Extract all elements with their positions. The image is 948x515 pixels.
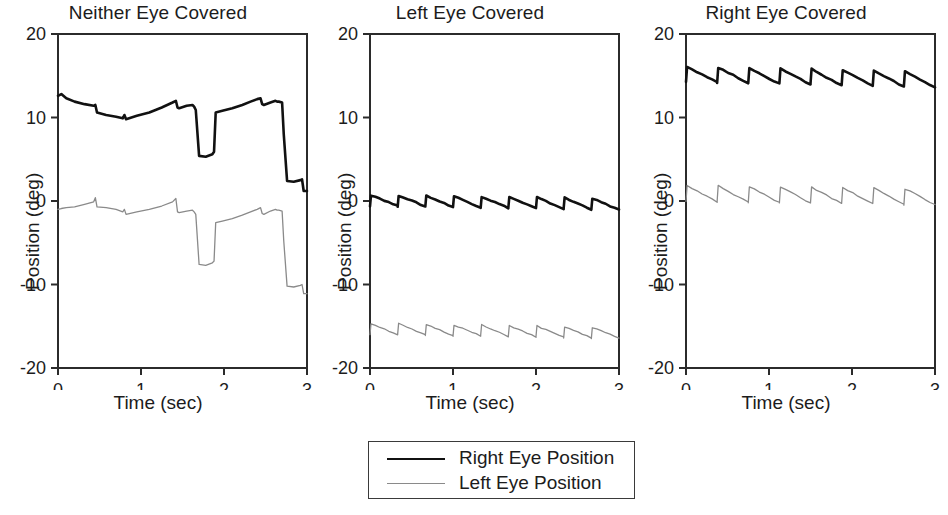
- svg-text:-20: -20: [20, 358, 46, 378]
- panel-right-eye-covered: Right Eye Covered Position (deg) 20100-1…: [628, 0, 944, 430]
- x-axis-title: Time (sec): [628, 392, 944, 414]
- legend-item-right-eye: Right Eye Position: [369, 445, 614, 471]
- svg-text:0: 0: [36, 191, 46, 211]
- svg-text:-10: -10: [332, 275, 358, 295]
- figure-legend: Right Eye Position Left Eye Position: [368, 441, 635, 499]
- svg-text:20: 20: [338, 24, 358, 44]
- svg-text:0: 0: [365, 380, 375, 390]
- svg-text:0: 0: [681, 380, 691, 390]
- svg-text:0: 0: [53, 380, 63, 390]
- legend-item-left-eye: Left Eye Position: [369, 470, 602, 496]
- x-axis-title: Time (sec): [312, 392, 628, 414]
- svg-text:0: 0: [348, 191, 358, 211]
- legend-line-swatch-right-eye: [387, 451, 445, 465]
- x-axis-title: Time (sec): [0, 392, 316, 414]
- svg-text:10: 10: [654, 108, 674, 128]
- plot-area: 20100-10-200123: [312, 0, 628, 390]
- svg-text:20: 20: [654, 24, 674, 44]
- svg-text:0: 0: [664, 191, 674, 211]
- svg-text:10: 10: [338, 108, 358, 128]
- svg-text:3: 3: [614, 380, 624, 390]
- svg-text:2: 2: [847, 380, 857, 390]
- eye-position-figure: Neither Eye Covered Position (deg) 20100…: [0, 0, 948, 515]
- svg-text:3: 3: [302, 380, 312, 390]
- legend-label-right-eye: Right Eye Position: [459, 447, 614, 469]
- plot-area: 20100-10-200123: [628, 0, 944, 390]
- svg-text:-20: -20: [332, 358, 358, 378]
- legend-line-swatch-left-eye: [387, 476, 445, 490]
- svg-text:10: 10: [26, 108, 46, 128]
- legend-label-left-eye: Left Eye Position: [459, 472, 602, 494]
- panel-row: Neither Eye Covered Position (deg) 20100…: [0, 0, 948, 430]
- svg-text:2: 2: [219, 380, 229, 390]
- svg-text:-20: -20: [648, 358, 674, 378]
- svg-text:3: 3: [930, 380, 940, 390]
- svg-text:20: 20: [26, 24, 46, 44]
- svg-text:1: 1: [764, 380, 774, 390]
- panel-left-eye-covered: Left Eye Covered Position (deg) 20100-10…: [312, 0, 628, 430]
- panel-neither-eye-covered: Neither Eye Covered Position (deg) 20100…: [0, 0, 316, 430]
- svg-text:-10: -10: [648, 275, 674, 295]
- svg-text:1: 1: [136, 380, 146, 390]
- plot-area: 20100-10-200123: [0, 0, 316, 390]
- svg-text:-10: -10: [20, 275, 46, 295]
- svg-text:2: 2: [531, 380, 541, 390]
- svg-text:1: 1: [448, 380, 458, 390]
